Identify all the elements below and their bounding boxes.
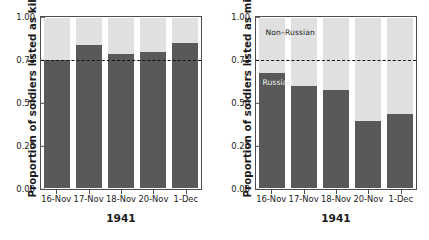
y-tick-label: 0.75 (231, 55, 250, 65)
segment-non-russian (355, 18, 381, 121)
x-tick-label: 18-Nov (106, 194, 136, 204)
y-tick-label: 0.25 (16, 141, 35, 151)
x-tick-20-nov: 20-Nov (137, 194, 169, 204)
y-tick-label: 0.00 (16, 184, 35, 194)
bar-1-dec-missing (384, 17, 416, 189)
tick-mark (186, 190, 187, 194)
segment-non-russian (140, 18, 166, 52)
x-tick-17-nov: 17-Nov (72, 194, 104, 204)
y-axis-title-left: Proportion of soldiers listed as killed (27, 22, 38, 198)
panel-killed: Proportion of soldiers listed as killed … (0, 0, 214, 240)
tick-mark (56, 190, 57, 194)
y-tick-0.75-left: 0.75 (16, 56, 41, 64)
x-tick-label: 18-Nov (321, 194, 351, 204)
y-axis-title-right: Proportion of soldiers listed as missing (242, 22, 253, 198)
x-axis-title-right: 1941 (255, 212, 417, 224)
y-tick-label: 1.00 (231, 12, 250, 22)
bar-17-nov-killed (73, 17, 105, 189)
tick-mark (121, 190, 122, 194)
x-tick-label: 20-Nov (353, 194, 383, 204)
y-tick-1.00-right: 1.00 (231, 13, 256, 21)
x-tick-label: 16-Nov (256, 194, 286, 204)
x-tick-20-nov: 20-Nov (352, 194, 384, 204)
tick-mark (153, 190, 154, 194)
tick-mark (271, 190, 272, 194)
bar-group-right (256, 17, 416, 189)
bar-18-nov-killed (105, 17, 137, 189)
x-axis-title-left: 1941 (40, 212, 202, 224)
tick-mark (336, 190, 337, 194)
y-tick-label: 0.50 (16, 98, 35, 108)
bar-20-nov-missing (352, 17, 384, 189)
bar-17-nov-missing (288, 17, 320, 189)
segment-non-russian (108, 18, 134, 54)
segment-non-russian (172, 18, 198, 43)
x-tick-16-nov: 16-Nov (255, 194, 287, 204)
tick-mark (89, 190, 90, 194)
segment-russian (44, 60, 70, 188)
y-tick-0.00-right: 0.00 (231, 185, 256, 193)
figure-two-panel-bar-chart: Proportion of soldiers listed as killed … (0, 0, 429, 240)
y-tick-0.50-left: 0.50 (16, 99, 41, 107)
plot-area-left: 1.00 0.75 0.50 0.25 0.00 (40, 16, 202, 190)
tick-mark (401, 190, 402, 194)
reference-line-right (256, 60, 416, 61)
panel-missing: Proportion of soldiers listed as missing… (215, 0, 429, 240)
y-tick-0.50-right: 0.50 (231, 99, 256, 107)
segment-russian (355, 121, 381, 188)
bar-16-nov-missing (256, 17, 288, 189)
x-tick-label: 20-Nov (138, 194, 168, 204)
bar-16-nov-killed (41, 17, 73, 189)
segment-non-russian (387, 18, 413, 114)
x-tick-1-dec: 1-Dec (385, 194, 417, 204)
segment-russian (140, 52, 166, 188)
segment-non-russian (76, 18, 102, 45)
x-tick-18-nov: 18-Nov (105, 194, 137, 204)
segment-russian (323, 90, 349, 188)
bar-18-nov-missing (320, 17, 352, 189)
bar-1-dec-killed (169, 17, 201, 189)
x-tick-label: 1-Dec (174, 194, 199, 204)
segment-russian (291, 86, 317, 188)
y-tick-label: 0.00 (231, 184, 250, 194)
x-tick-1-dec: 1-Dec (170, 194, 202, 204)
x-tick-17-nov: 17-Nov (287, 194, 319, 204)
segment-russian (108, 54, 134, 188)
label-russian: Russian (262, 78, 292, 87)
x-axis-labels-right: 16-Nov 17-Nov 18-Nov 20-Nov 1-Dec (255, 194, 417, 204)
x-tick-16-nov: 16-Nov (40, 194, 72, 204)
segment-russian (259, 73, 285, 188)
x-tick-label: 16-Nov (41, 194, 71, 204)
y-tick-0.00-left: 0.00 (16, 185, 41, 193)
x-tick-label: 17-Nov (74, 194, 104, 204)
bar-20-nov-killed (137, 17, 169, 189)
segment-non-russian (259, 18, 285, 73)
y-tick-0.25-right: 0.25 (231, 142, 256, 150)
segment-russian (172, 43, 198, 188)
tick-mark (368, 190, 369, 194)
segment-non-russian (323, 18, 349, 90)
x-axis-labels-left: 16-Nov 17-Nov 18-Nov 20-Nov 1-Dec (40, 194, 202, 204)
y-tick-0.25-left: 0.25 (16, 142, 41, 150)
segment-russian (76, 45, 102, 188)
tick-mark (304, 190, 305, 194)
x-tick-18-nov: 18-Nov (320, 194, 352, 204)
segment-russian (387, 114, 413, 188)
label-non-russian: Non–Russian (266, 28, 315, 37)
y-tick-label: 0.25 (231, 141, 250, 151)
y-tick-0.75-right: 0.75 (231, 56, 256, 64)
segment-non-russian (44, 18, 70, 60)
x-tick-label: 17-Nov (289, 194, 319, 204)
y-tick-label: 0.50 (231, 98, 250, 108)
plot-area-right: 1.00 0.75 0.50 0.25 0.00 (255, 16, 417, 190)
x-tick-label: 1-Dec (389, 194, 414, 204)
bar-group-left (41, 17, 201, 189)
y-tick-label: 1.00 (16, 12, 35, 22)
reference-line-left (41, 60, 201, 61)
y-tick-label: 0.75 (16, 55, 35, 65)
y-tick-1.00-left: 1.00 (16, 13, 41, 21)
